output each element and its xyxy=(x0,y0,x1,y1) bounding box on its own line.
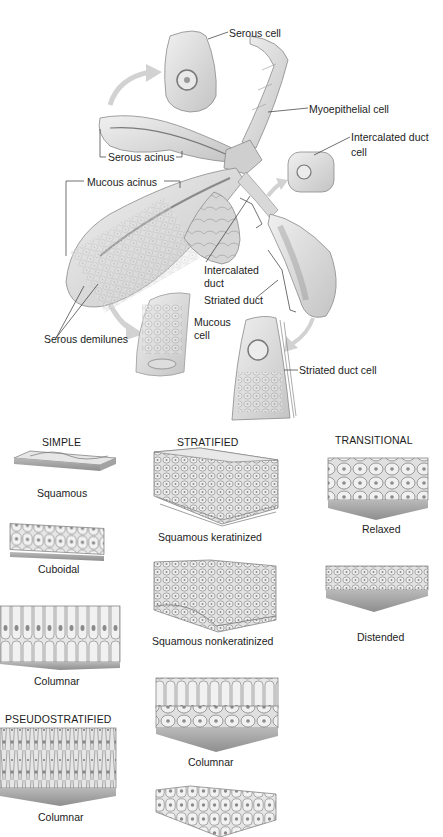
label-intercalated-duct: Intercalated xyxy=(204,264,259,276)
caption-trans-relaxed: Relaxed xyxy=(362,523,401,535)
label-intercalated-duct-line2: duct xyxy=(204,277,224,289)
label-mucous-cell: Mucous xyxy=(194,316,231,328)
label-serous-acinus: Serous acinus xyxy=(108,151,175,163)
caption-pseudo-columnar: Columnar xyxy=(38,811,84,823)
header-pseudostratified: PSEUDOSTRATIFIED xyxy=(5,713,111,725)
label-mucous-acinus: Mucous acinus xyxy=(87,176,157,188)
caption-strat-columnar: Columnar xyxy=(188,756,234,768)
label-mucous-cell-line2: cell xyxy=(194,329,210,341)
caption-simple-cuboidal: Cuboidal xyxy=(38,563,79,575)
caption-simple-squamous: Squamous xyxy=(37,487,87,499)
label-serous-cell: Serous cell xyxy=(229,27,281,39)
header-transitional: TRANSITIONAL xyxy=(335,434,413,446)
label-striated-duct-cell: Striated duct cell xyxy=(299,364,377,376)
label-intercalated-duct-cell-line2: cell xyxy=(351,146,367,158)
caption-strat-squamous-keratinized: Squamous keratinized xyxy=(158,531,262,543)
header-stratified: STRATIFIED xyxy=(177,436,238,448)
diagram-artwork xyxy=(0,0,443,837)
label-serous-demilunes: Serous demilunes xyxy=(44,333,128,345)
caption-simple-columnar: Columnar xyxy=(34,675,80,687)
caption-trans-distended: Distended xyxy=(357,631,404,643)
label-striated-duct: Striated duct xyxy=(204,294,263,306)
label-intercalated-duct-cell: Intercalated duct xyxy=(351,131,429,143)
header-simple: SIMPLE xyxy=(42,436,81,448)
caption-strat-squamous-nonkeratinized: Squamous nonkeratinized xyxy=(152,635,273,647)
label-myoepithelial-cell: Myoepithelial cell xyxy=(309,103,389,115)
